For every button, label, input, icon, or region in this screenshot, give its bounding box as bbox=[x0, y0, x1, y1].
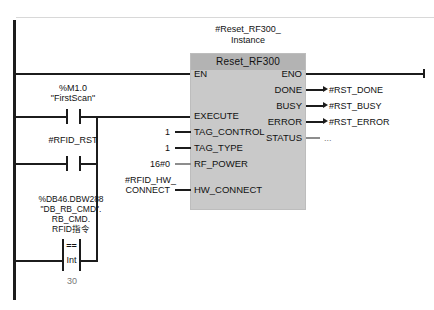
fb-stub-tag-control bbox=[175, 131, 191, 133]
execute-rung-wire bbox=[96, 116, 191, 118]
fb-pin-error: ERROR bbox=[236, 117, 302, 127]
ladder-network-canvas: %M1.0 "FirstScan" #RFID_RST %DB46.DBW288… bbox=[0, 0, 434, 310]
comparator-compare-value: 30 bbox=[52, 276, 92, 286]
fb-operand-done[interactable]: #RST_DONE bbox=[329, 85, 383, 95]
fb-pin-rf-power: RF_POWER bbox=[194, 159, 248, 169]
contact-rfid-rst-wire-right bbox=[81, 163, 98, 165]
fb-operand-tag-type[interactable]: 1 bbox=[140, 143, 170, 153]
contact-firstscan[interactable] bbox=[66, 109, 81, 124]
fb-stub-done bbox=[306, 89, 324, 91]
eno-wire-endcap bbox=[423, 69, 425, 78]
contact-firstscan-wire-left bbox=[14, 116, 66, 118]
fb-pin-status: STATUS bbox=[236, 133, 302, 143]
fb-pin-execute: EXECUTE bbox=[194, 111, 239, 121]
comparator-operator: == bbox=[64, 242, 79, 251]
contact-firstscan-wire-right bbox=[81, 116, 98, 118]
fb-pin-hw-connect: HW_CONNECT bbox=[194, 185, 262, 195]
fb-stub-status bbox=[306, 137, 320, 139]
eno-output-wire bbox=[306, 73, 424, 75]
fb-stub-hw-connect bbox=[175, 189, 191, 191]
comparator-operand-line2: "DB_RB_CMD". bbox=[16, 204, 126, 214]
comparator-block[interactable]: == Int bbox=[62, 239, 81, 271]
fb-arrow-error bbox=[323, 118, 328, 124]
fb-pin-busy: BUSY bbox=[236, 101, 302, 111]
fb-stub-rf-power bbox=[175, 163, 191, 165]
fb-stub-tag-type bbox=[175, 147, 191, 149]
fb-operand-hw-connect-line2[interactable]: CONNECT bbox=[125, 185, 170, 195]
comparator-wire-left bbox=[14, 260, 62, 262]
fb-operand-hw-connect-line1[interactable]: #RFID_HW_ bbox=[125, 175, 170, 185]
contact-rfid-rst-address: #RFID_RST bbox=[38, 135, 108, 146]
network-top-separator bbox=[16, 17, 434, 18]
comparator-data-type: Int bbox=[64, 255, 79, 265]
comparator-operand-line4: RFID指令 bbox=[16, 224, 126, 234]
fb-arrow-busy bbox=[323, 102, 328, 108]
fb-pin-done: DONE bbox=[236, 85, 302, 95]
left-power-rail bbox=[13, 20, 16, 300]
fb-pin-en: EN bbox=[194, 69, 207, 79]
contact-rfid-rst[interactable] bbox=[66, 156, 81, 171]
en-rung-wire bbox=[14, 73, 191, 75]
fb-operand-status[interactable]: ... bbox=[324, 133, 332, 143]
fb-stub-error bbox=[306, 121, 324, 123]
fb-operand-rf-power[interactable]: 16#0 bbox=[130, 159, 170, 169]
contact-firstscan-symbol: "FirstScan" bbox=[38, 93, 108, 104]
fb-stub-busy bbox=[306, 105, 324, 107]
contact-rfid-rst-wire-left bbox=[14, 163, 66, 165]
fb-pin-tag-type: TAG_TYPE bbox=[194, 143, 243, 153]
fb-instance-name-line1: #Reset_RF300_ bbox=[190, 24, 306, 35]
comparator-wire-right bbox=[80, 260, 98, 262]
fb-operand-busy[interactable]: #RST_BUSY bbox=[329, 101, 382, 111]
fb-operand-tag-control[interactable]: 1 bbox=[140, 127, 170, 137]
fb-instance-name-line2: Instance bbox=[190, 35, 306, 46]
comparator-operand-line1: %DB46.DBW288 bbox=[16, 194, 126, 204]
fb-operand-error[interactable]: #RST_ERROR bbox=[329, 117, 390, 127]
fb-arrow-done bbox=[323, 86, 328, 92]
fb-pin-eno: ENO bbox=[236, 69, 302, 79]
contact-firstscan-address: %M1.0 bbox=[38, 83, 108, 94]
comparator-operand-line3: RB_CMD. bbox=[16, 214, 126, 224]
